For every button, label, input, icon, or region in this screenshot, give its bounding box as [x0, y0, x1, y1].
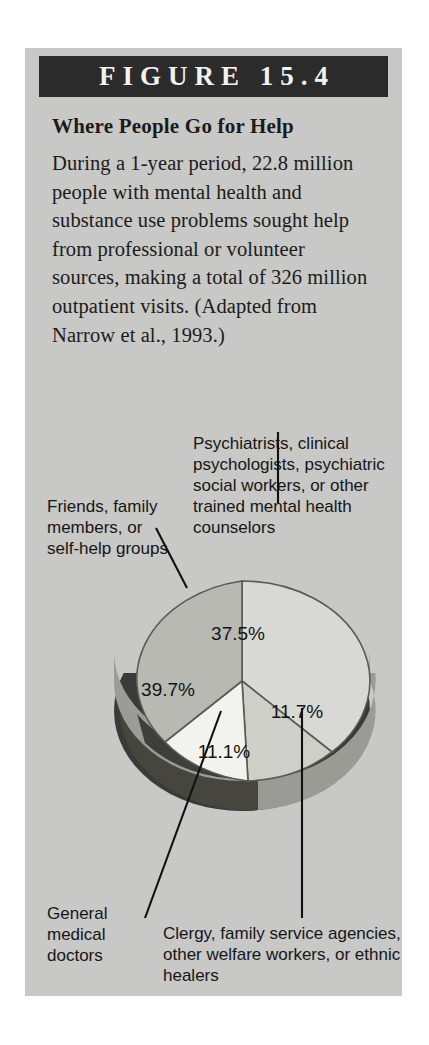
pie-graphic: 37.5% 11.7% 11.1% 39.7% [25, 418, 402, 996]
figure-number-band: FIGURE 15.4 [39, 56, 388, 97]
pie-value-psychiatrists: 37.5% [211, 623, 265, 644]
leader-line-friends [156, 528, 187, 588]
figure-panel: FIGURE 15.4 Where People Go for Help Dur… [25, 48, 402, 996]
pie-value-clergy: 11.7% [271, 701, 324, 722]
pie-value-general-medical: 11.1% [198, 741, 251, 762]
pie-value-friends: 39.7% [141, 679, 195, 700]
figure-caption: During a 1-year period, 22.8 million peo… [52, 149, 372, 349]
figure-title: Where People Go for Help [52, 114, 382, 139]
pie-chart: Psychiatrists, clinical psychologists, p… [25, 418, 402, 996]
figure-number-label: FIGURE 15.4 [92, 61, 335, 92]
